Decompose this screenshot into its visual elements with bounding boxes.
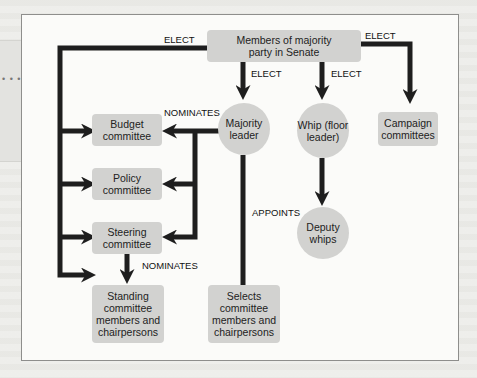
label-elect-whip: ELECT (331, 68, 362, 79)
node-steering-committee: Steering committee (92, 222, 162, 254)
node-campaign-committees: Campaign committees (378, 112, 438, 146)
label-nominates-leader: NOMINATES (164, 107, 220, 118)
node-majority-leader: Majority leader (218, 103, 270, 155)
label-elect-leader: ELECT (251, 68, 282, 79)
node-whip: Whip (floor leader) (297, 103, 349, 158)
node-budget-committee: Budget committee (92, 114, 162, 146)
label-nominates-steering: NOMINATES (142, 260, 198, 271)
node-members-majority-party: Members of majority party in Senate (207, 30, 361, 62)
label-appoints: APPOINTS (252, 207, 300, 218)
node-policy-committee: Policy committee (92, 168, 162, 200)
label-elect-right: ELECT (365, 30, 396, 41)
node-standing-committee: Standing committee members and chairpers… (92, 285, 164, 343)
label-elect-left: ELECT (164, 34, 195, 45)
node-deputy-whips: Deputy whips (297, 207, 349, 259)
node-selects-committee: Selects committee members and chairperso… (208, 285, 280, 343)
